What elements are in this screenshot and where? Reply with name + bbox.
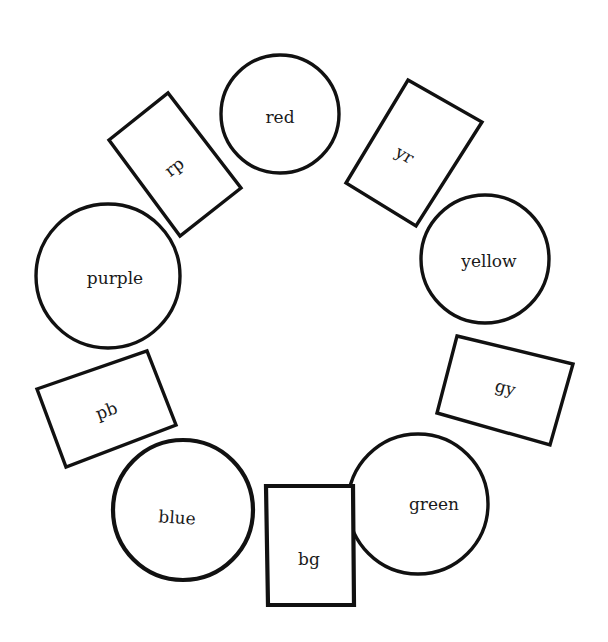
circle-green: green: [348, 434, 488, 574]
purple-label: purple: [87, 268, 143, 288]
circle-red: red: [221, 55, 339, 173]
bg-rect-shape: [266, 486, 354, 605]
circle-blue: blue: [113, 440, 253, 580]
blue-label: blue: [158, 506, 197, 529]
rect-bg: bg: [266, 486, 354, 605]
circle-yellow: yellow: [421, 195, 549, 323]
circle-purple: purple: [36, 204, 180, 348]
bg-label: bg: [298, 549, 320, 569]
red-label: red: [265, 107, 294, 127]
green-label: green: [409, 494, 459, 514]
rect-gy: gy: [437, 336, 573, 445]
yellow-label: yellow: [460, 251, 517, 271]
color-wheel-diagram: red yellow green blue purple yr gy: [0, 0, 608, 642]
